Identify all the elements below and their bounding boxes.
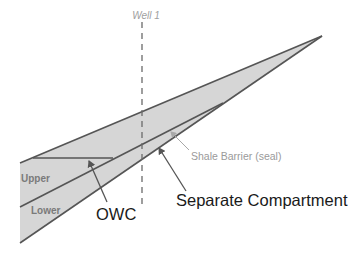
well-1-label: Well 1: [132, 10, 160, 21]
owc-label: OWC: [96, 205, 136, 223]
reservoir-diagram: Well 1 Upper Lower Shale Barrier (seal) …: [0, 0, 348, 255]
separate-compartment-label: Separate Compartment: [176, 191, 348, 209]
shale-barrier-arrow: [171, 132, 189, 150]
upper-zone-label: Upper: [21, 173, 50, 184]
lower-zone-label: Lower: [31, 205, 61, 216]
top-boundary-line: [20, 36, 322, 163]
bottom-boundary-line: [20, 36, 322, 243]
separate-compartment-arrow: [159, 148, 186, 191]
shale-barrier-label: Shale Barrier (seal): [191, 150, 281, 162]
